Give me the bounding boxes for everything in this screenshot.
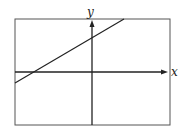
y-axis-arrow-icon (90, 20, 95, 27)
x-axis-label: x (171, 65, 178, 79)
x-axis-arrow-icon (161, 70, 168, 75)
coordinate-plane-diagram: x y (0, 0, 184, 132)
y-axis-label: y (86, 5, 94, 19)
plotted-line (15, 19, 124, 83)
